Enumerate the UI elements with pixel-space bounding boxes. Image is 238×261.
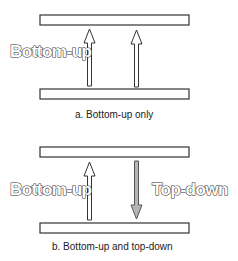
panel-a: Bottom-up a. Bottom-up only	[10, 15, 189, 120]
panel-b: Bottom-up Top-down b. Bottom-up and top-…	[10, 147, 228, 252]
diagram-canvas: Bottom-up a. Bottom-up only Bottom-up To…	[0, 0, 238, 261]
top-down-label: Top-down	[152, 180, 228, 199]
bottom-up-label: Bottom-up	[10, 180, 92, 199]
bottom-up-label: Bottom-up	[10, 42, 92, 61]
caption-b: b. Bottom-up and top-down	[52, 241, 173, 252]
up-arrow-icon	[131, 30, 142, 87]
bottom-bar	[40, 223, 189, 233]
bottom-bar	[40, 89, 189, 99]
top-bar	[40, 147, 189, 157]
down-arrow-icon	[131, 161, 142, 219]
top-bar	[40, 15, 189, 25]
caption-a: a. Bottom-up only	[75, 109, 153, 120]
